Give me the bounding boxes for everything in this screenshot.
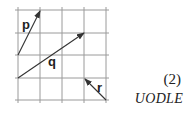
- question-source: UODLE: [135, 91, 183, 107]
- marks-area: (2) UODLE: [0, 0, 191, 116]
- marks-count: (2): [164, 71, 182, 88]
